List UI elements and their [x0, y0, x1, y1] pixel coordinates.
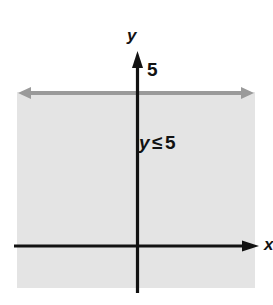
- inequality-value: 5: [165, 132, 176, 153]
- y-tick-label-5: 5: [147, 60, 158, 79]
- graph-canvas: [0, 0, 273, 305]
- inequality-relation: ≤: [150, 132, 165, 153]
- inequality-graph-figure: y x 5 y≤5: [0, 0, 273, 305]
- x-axis-label: x: [264, 236, 273, 253]
- inequality-variable: y: [139, 132, 150, 153]
- y-axis-arrowhead: [132, 51, 143, 68]
- y-axis-label: y: [127, 27, 136, 44]
- region-inequality-label: y≤5: [139, 133, 176, 152]
